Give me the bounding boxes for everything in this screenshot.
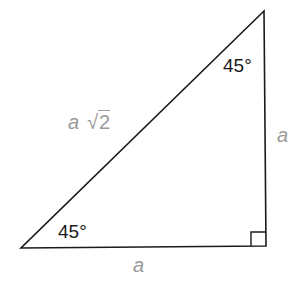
bottom-side-label: a — [133, 255, 144, 275]
triangle-svg — [0, 0, 298, 281]
square-root-symbol: √2 — [87, 110, 110, 132]
hypotenuse-variable: a — [68, 111, 79, 133]
top-angle-label: 45° — [223, 56, 252, 75]
bottom-angle-label: 45° — [58, 222, 87, 241]
triangle-diagram: 45° 45° a√2 a a — [0, 0, 298, 281]
right-side-label: a — [277, 125, 288, 145]
triangle-outline — [21, 11, 266, 248]
right-angle-marker — [251, 232, 266, 246]
hypotenuse-label: a√2 — [68, 110, 110, 132]
radicand: 2 — [98, 110, 110, 132]
